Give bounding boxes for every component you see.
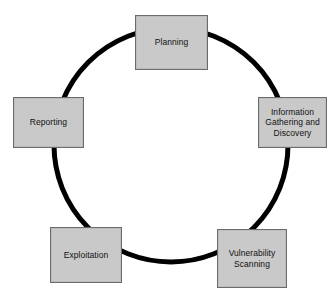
stage-box-planning[interactable]: Planning [135,15,208,70]
stage-label-information-gathering-and-discovery: Information Gathering and Discovery [263,107,322,139]
stage-label-exploitation: Exploitation [62,250,111,261]
stage-box-reporting[interactable]: Reporting [13,97,84,148]
stage-label-vulnerability-scanning: Vulnerability Scanning [227,248,278,269]
stage-box-exploitation[interactable]: Exploitation [50,227,122,283]
stage-box-vulnerability-scanning[interactable]: Vulnerability Scanning [217,229,287,288]
cycle-diagram: Planning Information Gathering and Disco… [0,0,335,295]
stage-box-information-gathering-and-discovery[interactable]: Information Gathering and Discovery [258,97,327,148]
stage-label-planning: Planning [153,37,190,48]
stage-label-reporting: Reporting [28,117,69,128]
